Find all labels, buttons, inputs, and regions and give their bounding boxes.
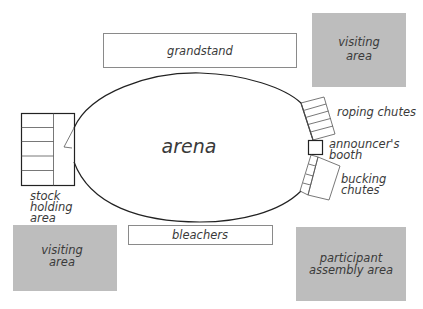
participant-area-label-2: assembly area bbox=[309, 263, 393, 277]
bucking-chutes-label-2: chutes bbox=[341, 183, 379, 197]
participant-assembly-area: participant assembly area bbox=[296, 227, 406, 301]
visiting-area-top-label-2: area bbox=[346, 49, 372, 63]
visiting-area-bottom: visiting area bbox=[13, 225, 117, 291]
stock-holding-pen: stock holding area bbox=[22, 114, 75, 226]
bleachers: bleachers bbox=[129, 226, 273, 245]
grandstand: grandstand bbox=[104, 34, 297, 68]
rodeo-layout-diagram: grandstand visiting area stock holding a… bbox=[0, 0, 423, 309]
roping-chutes: roping chutes bbox=[301, 97, 416, 140]
visiting-area-bottom-label-2: area bbox=[49, 255, 75, 269]
arena-label: arena bbox=[162, 135, 217, 157]
announcers-booth: announcer's booth bbox=[309, 137, 400, 162]
grandstand-label: grandstand bbox=[167, 44, 233, 58]
gate-icon bbox=[64, 128, 74, 148]
bleachers-label: bleachers bbox=[172, 228, 228, 242]
announcers-booth-label-2: booth bbox=[329, 148, 362, 162]
arena: arena bbox=[74, 73, 313, 222]
roping-chutes-label: roping chutes bbox=[337, 105, 416, 119]
visiting-area-top: visiting area bbox=[312, 13, 406, 87]
stock-holding-label-3: area bbox=[30, 211, 56, 225]
visiting-area-top-label-1: visiting bbox=[338, 35, 379, 49]
